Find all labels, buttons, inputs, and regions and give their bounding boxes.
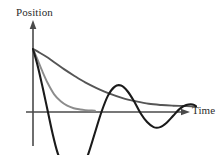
y-axis-arrowhead — [30, 20, 37, 29]
y-axis-label: Position — [16, 6, 53, 18]
x-axis-arrowhead — [181, 109, 190, 116]
curve-critically-damped — [33, 49, 95, 111]
position-vs-time-chart — [0, 0, 216, 155]
curves-group — [33, 49, 196, 155]
x-axis-label: Time — [192, 104, 215, 116]
damped-oscillation-figure: Position Time — [0, 0, 216, 155]
